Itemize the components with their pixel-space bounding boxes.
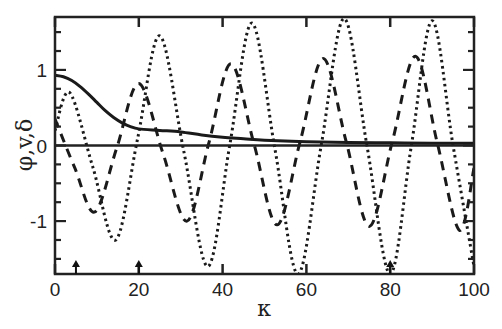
x-axis-label: κ: [257, 296, 271, 321]
up-arrow-icon: [386, 260, 394, 274]
x-tick-label: 60: [296, 279, 317, 300]
x-tick-label: 40: [212, 279, 233, 300]
x-tick-label: 20: [128, 279, 149, 300]
y-tick-label: 1: [36, 60, 47, 81]
y-tick-label: -1: [30, 211, 47, 232]
up-arrow-icon: [72, 260, 80, 274]
tick-labels: 020406080100-101: [30, 60, 490, 300]
x-tick-label: 0: [50, 279, 61, 300]
chart: 020406080100-101 κ φ,v,δ: [0, 0, 502, 329]
up-arrow-icon: [135, 260, 143, 274]
y-axis-label: φ,v,δ: [12, 119, 37, 171]
annotation-arrows: [72, 260, 394, 274]
y-tick-label: 0: [36, 136, 47, 157]
x-tick-label: 80: [380, 279, 401, 300]
x-tick-label: 100: [458, 279, 490, 300]
